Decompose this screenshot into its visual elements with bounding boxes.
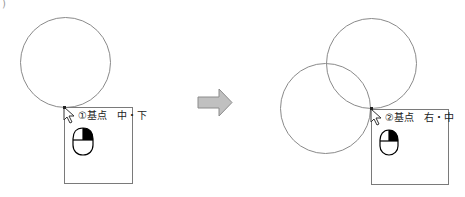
mouse-right-button-icon: [379, 129, 399, 156]
right-arrow-icon: [197, 88, 235, 117]
circle-before: [20, 17, 111, 108]
cursor-arrow-icon: [63, 106, 77, 126]
snap-point-icon: [370, 107, 373, 110]
stray-mark: ): [2, 0, 6, 9]
circle-after-bottom-left: [280, 63, 371, 154]
diagram-canvas: ) ①基点 中・下 ②基点 右・中: [0, 0, 465, 197]
cursor-arrow-icon: [370, 108, 384, 128]
basepoint-label-after: ②基点 右・中: [385, 112, 454, 124]
mouse-right-button-icon: [72, 127, 94, 156]
snap-point-icon: [63, 106, 66, 109]
basepoint-label-before: ①基点 中・下: [78, 110, 147, 122]
